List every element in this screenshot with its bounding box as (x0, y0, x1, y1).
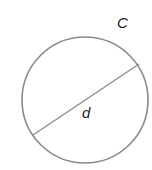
diameter-label: d (82, 104, 91, 121)
circumference-label: C (117, 14, 128, 31)
circle-diagram: C d (0, 0, 152, 170)
diameter-line (33, 64, 139, 135)
